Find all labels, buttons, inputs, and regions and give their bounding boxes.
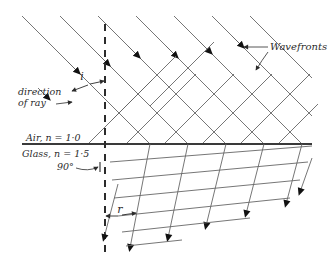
direction-of-ray-label-line1: direction <box>18 86 61 97</box>
medium-air-label: Air, n = 1·0 <box>25 132 81 143</box>
incident-ray-arrowheads <box>38 36 242 98</box>
ray-arrow <box>166 46 176 56</box>
medium-glass-label: Glass, n = 1·5 <box>22 148 89 159</box>
wavefront-air <box>202 74 272 144</box>
ray-arrow <box>68 62 78 72</box>
right-angle-label: 90° <box>57 161 74 172</box>
wavefront-air <box>240 74 310 144</box>
incident-ray <box>212 16 312 116</box>
direction-of-ray-label-line2: of ray <box>18 97 46 108</box>
wavefronts-label: Wavefronts <box>270 41 327 52</box>
wavefront-air <box>126 74 196 144</box>
direction-of-ray-leader-line <box>56 102 72 104</box>
incident-ray <box>60 16 188 144</box>
incident-ray <box>98 16 226 144</box>
wavefront-air <box>112 56 176 120</box>
ray-arrow <box>128 46 138 56</box>
wavefront-air <box>278 104 318 144</box>
wavefront-glass <box>112 162 308 180</box>
wavefront-glass <box>110 146 312 162</box>
ray-arrow <box>232 36 242 46</box>
wavefronts-leader-line-lower <box>256 52 268 70</box>
wavefront-glass <box>114 180 300 198</box>
incident-ray <box>174 16 302 144</box>
wavefront-glass <box>126 240 182 246</box>
refraction-diagram-figure: i r 90° Air, n = 1·0 Glass, n = 1·5 dire… <box>0 0 336 264</box>
wavefront-glass <box>118 198 290 216</box>
refracted-ray <box>286 144 302 204</box>
wavefronts-air-group <box>88 42 318 144</box>
wavefront-air <box>164 74 234 144</box>
angle-i-arrow-left <box>72 85 88 91</box>
diagram-canvas: i r 90° Air, n = 1·0 Glass, n = 1·5 dire… <box>0 0 336 264</box>
angle-of-refraction-label: r <box>117 203 123 216</box>
refracted-ray <box>104 184 118 238</box>
wavefront-air <box>150 42 214 106</box>
incident-ray <box>22 16 150 144</box>
refracted-ray <box>246 144 264 214</box>
incident-rays-group <box>22 16 312 144</box>
incident-ray <box>136 16 264 144</box>
angle-of-incidence-label: i <box>80 70 84 83</box>
wavefront-glass <box>122 218 250 232</box>
refracted-ray <box>300 158 312 192</box>
ray-arrow <box>98 54 108 64</box>
refracted-ray <box>206 144 226 226</box>
right-angle-leader-line <box>76 167 98 170</box>
angle-i-arrow-right <box>90 81 104 84</box>
